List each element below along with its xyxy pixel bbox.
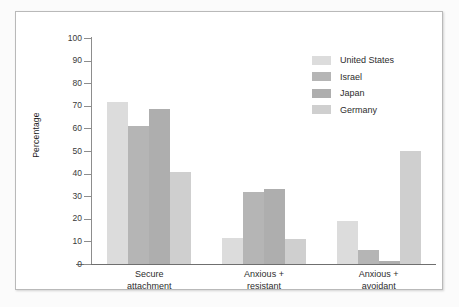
legend-item-label: United States xyxy=(340,55,394,65)
y-axis-tick-label: 70 xyxy=(38,101,82,110)
y-axis-tick-label-text: 100 xyxy=(42,34,82,43)
x-axis-category-label: Secureattachment xyxy=(89,269,209,292)
legend-swatch-icon xyxy=(312,105,331,114)
y-axis-tick xyxy=(84,196,91,197)
legend-item[interactable]: Japan xyxy=(312,85,436,102)
bar xyxy=(222,238,243,264)
bar xyxy=(337,221,358,264)
legend-swatch-icon xyxy=(312,56,331,65)
y-axis-tick xyxy=(84,219,91,220)
y-axis-tick xyxy=(84,61,91,62)
y-axis-tick-label-text: 30 xyxy=(42,192,82,201)
x-axis-category-label-line: Secure xyxy=(89,269,209,281)
x-axis-category-label: Anxious +avoidant xyxy=(319,269,439,292)
y-axis-tick xyxy=(84,128,91,129)
figure-canvas: Percentage 0102030405060708090100 Secure… xyxy=(0,0,459,307)
y-axis-tick-label-text: 60 xyxy=(42,124,82,133)
y-axis-tick-label-text: 0 xyxy=(42,260,82,269)
y-axis-tick-label: 20 xyxy=(38,214,82,223)
legend-swatch-icon xyxy=(312,89,331,98)
legend-item-label: Israel xyxy=(340,72,362,82)
chart-legend: United StatesIsraelJapanGermany xyxy=(312,52,436,118)
y-axis-tick xyxy=(84,83,91,84)
chart-panel: Percentage 0102030405060708090100 Secure… xyxy=(15,11,443,290)
y-axis-tick-label: 80 xyxy=(38,79,82,88)
bar xyxy=(358,250,379,264)
legend-item-label: Japan xyxy=(340,88,365,98)
bar xyxy=(149,109,170,264)
x-axis-category-label-line: attachment xyxy=(89,281,209,293)
bar xyxy=(243,192,264,264)
x-axis-category-label: Anxious +resistant xyxy=(204,269,324,292)
bar xyxy=(400,151,421,264)
y-axis-tick-label: 100 xyxy=(38,34,82,43)
y-axis-tick xyxy=(84,38,91,39)
y-axis-tick-label-text: 50 xyxy=(42,147,82,156)
legend-item-label: Germany xyxy=(340,105,377,115)
y-axis-tick-label: 90 xyxy=(38,56,82,65)
bar xyxy=(264,189,285,264)
y-axis-tick xyxy=(84,241,91,242)
y-axis-tick-label-text: 70 xyxy=(42,101,82,110)
y-axis-tick-label: 50 xyxy=(38,147,82,156)
y-axis-tick-label-text: 10 xyxy=(42,237,82,246)
legend-item[interactable]: United States xyxy=(312,52,436,69)
y-axis-tick-label-text: 80 xyxy=(42,79,82,88)
bar xyxy=(285,239,306,264)
x-axis-line xyxy=(76,264,436,265)
legend-item[interactable]: Germany xyxy=(312,102,436,119)
x-axis-category-label-line: resistant xyxy=(204,281,324,293)
y-axis-tick xyxy=(84,174,91,175)
legend-item[interactable]: Israel xyxy=(312,69,436,86)
y-axis-tick xyxy=(84,106,91,107)
y-axis-tick-label-text: 90 xyxy=(42,56,82,65)
x-axis-category-label-line: Anxious + xyxy=(319,269,439,281)
bar xyxy=(379,261,400,264)
y-axis-tick-label: 0 xyxy=(38,260,82,269)
y-axis-tick xyxy=(84,151,91,152)
y-axis-tick xyxy=(84,264,91,265)
bar xyxy=(128,126,149,264)
bar xyxy=(170,172,191,264)
y-axis-tick-label: 30 xyxy=(38,192,82,201)
y-axis-tick-label-text: 20 xyxy=(42,214,82,223)
legend-swatch-icon xyxy=(312,72,331,81)
y-axis-tick-label: 10 xyxy=(38,237,82,246)
y-axis-tick-label: 60 xyxy=(38,124,82,133)
bar xyxy=(107,102,128,264)
y-axis-tick-label: 40 xyxy=(38,169,82,178)
x-axis-category-label-line: avoidant xyxy=(319,281,439,293)
x-axis-category-label-line: Anxious + xyxy=(204,269,324,281)
y-axis-tick-label-text: 40 xyxy=(42,169,82,178)
